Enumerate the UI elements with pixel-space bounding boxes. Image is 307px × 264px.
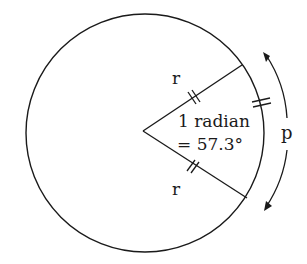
angle-label-line2: = 57.3°: [177, 134, 243, 154]
radius-upper-label: r: [172, 68, 181, 88]
radian-diagram: r r 1 radian = 57.3° p: [0, 0, 307, 264]
arrowhead-down-icon: [264, 201, 272, 211]
angle-label-line1: 1 radian: [178, 111, 250, 131]
arc-arrow-upper: [266, 55, 287, 118]
equal-tick-arc-icon: [252, 98, 271, 107]
radius-lower-label: r: [172, 179, 181, 199]
arc-label: p: [281, 122, 293, 143]
arc-arrow-lower: [266, 150, 287, 207]
